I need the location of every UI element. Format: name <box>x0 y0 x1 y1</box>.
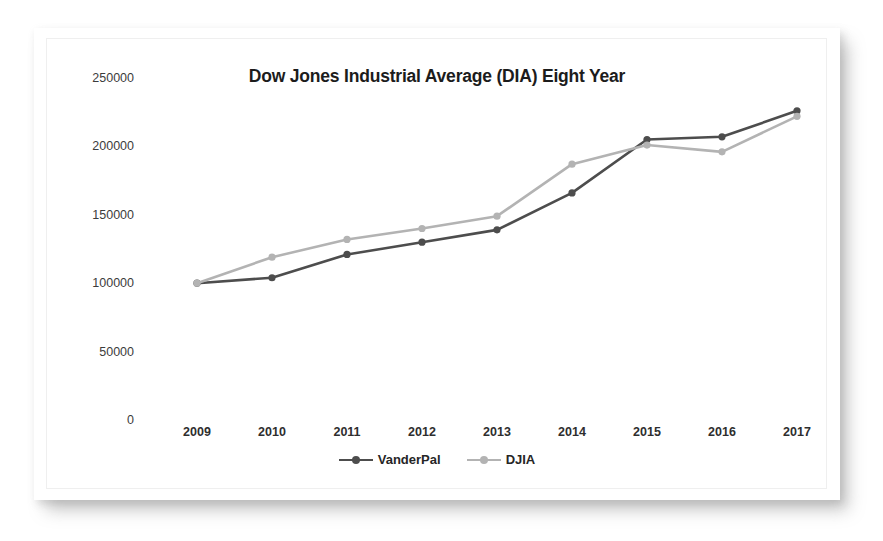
x-tick-label: 2012 <box>408 425 436 439</box>
y-tick-label: 200000 <box>64 139 134 153</box>
y-tick-label: 0 <box>64 413 134 427</box>
y-tick-label: 50000 <box>64 345 134 359</box>
data-point-marker <box>268 254 275 261</box>
data-point-marker <box>193 280 200 287</box>
x-tick-label: 2016 <box>708 425 736 439</box>
series-line-vanderpal <box>197 111 797 283</box>
y-tick-label: 250000 <box>64 71 134 85</box>
data-point-marker <box>568 189 575 196</box>
data-point-marker <box>643 141 650 148</box>
legend-entry-djia[interactable]: DJIA <box>467 452 536 467</box>
legend-label: VanderPal <box>378 452 441 467</box>
y-tick-label: 150000 <box>64 208 134 222</box>
data-point-marker <box>493 213 500 220</box>
x-tick-label: 2010 <box>258 425 286 439</box>
series-canvas <box>129 78 829 420</box>
data-point-marker <box>568 161 575 168</box>
x-tick-label: 2013 <box>483 425 511 439</box>
data-point-marker <box>493 226 500 233</box>
legend-marker-icon <box>467 454 501 466</box>
data-point-marker <box>343 251 350 258</box>
x-tick-label: 2017 <box>783 425 811 439</box>
chart-card: Dow Jones Industrial Average (DIA) Eight… <box>34 28 840 500</box>
y-tick-label: 100000 <box>64 276 134 290</box>
y-axis: 050000100000150000200000250000 <box>64 78 134 420</box>
data-point-marker <box>418 225 425 232</box>
series-line-djia <box>197 116 797 283</box>
data-point-marker <box>418 239 425 246</box>
data-point-marker <box>793 113 800 120</box>
x-axis: 200920102011201220132014201520162017 <box>129 423 829 447</box>
legend-label: DJIA <box>506 452 536 467</box>
plot-area <box>129 78 829 420</box>
data-point-marker <box>718 133 725 140</box>
data-point-marker <box>343 236 350 243</box>
x-tick-label: 2011 <box>333 425 360 439</box>
data-point-marker <box>718 148 725 155</box>
x-tick-label: 2015 <box>633 425 661 439</box>
data-point-marker <box>268 274 275 281</box>
legend-marker-icon <box>339 454 373 466</box>
x-tick-label: 2009 <box>183 425 211 439</box>
screenshot-root: Dow Jones Industrial Average (DIA) Eight… <box>0 0 883 541</box>
chart-legend: VanderPalDJIA <box>34 452 840 467</box>
x-tick-label: 2014 <box>558 425 586 439</box>
legend-entry-vanderpal[interactable]: VanderPal <box>339 452 441 467</box>
